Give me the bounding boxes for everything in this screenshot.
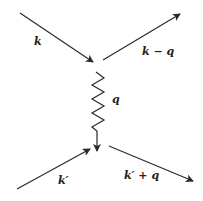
label-q: q	[112, 93, 120, 106]
label-k-prime: k′	[58, 174, 69, 187]
incoming-electron-line-top	[20, 13, 93, 62]
diagram-lines	[0, 0, 203, 201]
label-k: k	[34, 35, 42, 48]
label-k-minus-q: k − q	[142, 45, 174, 58]
feynman-diagram: k k − q q k′ k′ + q	[0, 0, 203, 201]
label-k-prime-plus-q: k′ + q	[124, 169, 159, 182]
photon-propagator-zigzag	[92, 72, 104, 151]
incoming-electron-line-bottom	[17, 149, 90, 189]
